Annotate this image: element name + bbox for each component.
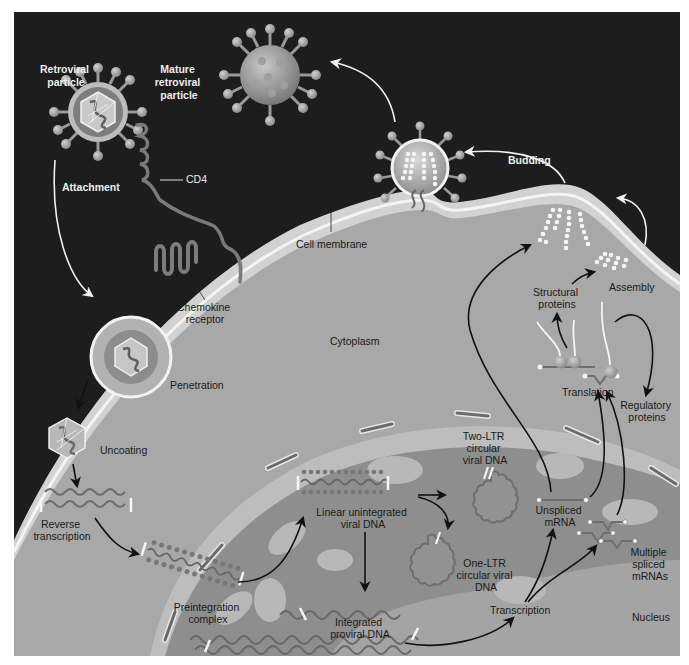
label-assembly: Assembly [609, 281, 655, 293]
label-reverse-transcription: Reverse transcription [33, 518, 90, 542]
label-cd4: CD4 [186, 173, 207, 185]
label-cell-membrane: Cell membrane [296, 238, 367, 250]
label-mature-particle: Mature retroviral particle [155, 63, 203, 101]
label-two-ltr: Two-LTR circular viral DNA [463, 430, 508, 466]
label-nucleus: Nucleus [632, 611, 670, 623]
label-uncoating: Uncoating [100, 444, 147, 456]
label-penetration: Penetration [170, 379, 224, 391]
label-budding: Budding [508, 154, 551, 166]
label-transcription: Transcription [490, 604, 550, 616]
retroviral-life-cycle-diagram: Retroviral particle Mature retroviral pa… [0, 0, 689, 665]
label-retroviral-particle: Retroviral particle [40, 63, 92, 88]
label-cytoplasm: Cytoplasm [330, 335, 380, 347]
label-multiple-spliced: Multiple spliced mRNAs [630, 546, 669, 582]
label-integrated-dna: Integrated proviral DNA [330, 616, 390, 640]
label-attachment: Attachment [62, 181, 120, 193]
mature-retroviral-particle [219, 24, 321, 126]
label-structural-proteins: Structural proteins [533, 286, 581, 310]
penetration-endosome [91, 317, 171, 397]
label-translation: Translation [562, 386, 614, 398]
